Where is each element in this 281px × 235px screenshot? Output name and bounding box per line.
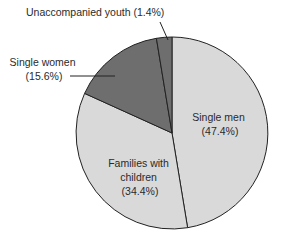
- label-youth: Unaccompanied youth (1.4%): [26, 6, 164, 18]
- pie-chart: Unaccompanied youth (1.4%) Single women …: [0, 0, 281, 235]
- label-single-women: Single women (15.6%): [10, 56, 79, 82]
